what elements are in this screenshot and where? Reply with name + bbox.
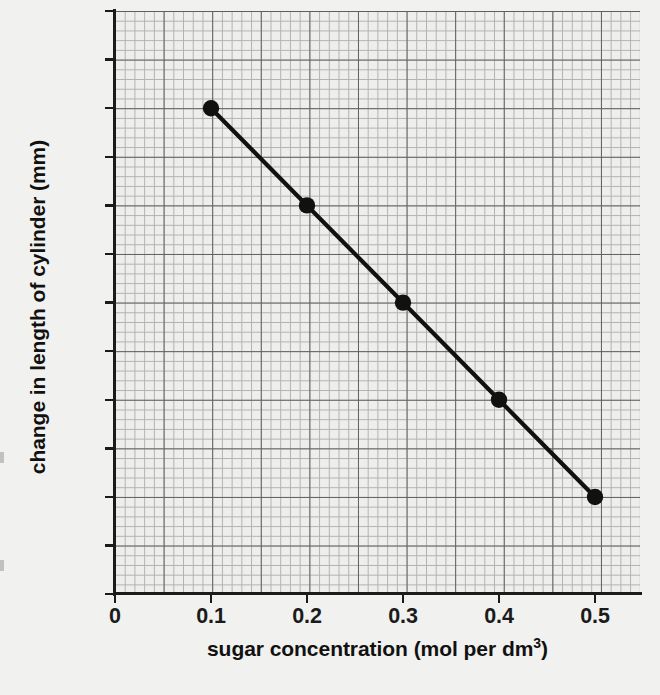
x-tick-label: 0.2 xyxy=(267,604,347,629)
y-tick-mark xyxy=(105,204,114,206)
y-tick-mark xyxy=(105,301,114,303)
x-tick-label: 0.5 xyxy=(555,604,635,629)
y-tick-mark xyxy=(105,544,114,546)
x-axis-title-base: sugar concentration (mol per dm xyxy=(207,637,533,660)
chart-figure: 3.0 2.5 2.0 1.5 1.0 0.5 0 −0.5 −1.0 −1.5… xyxy=(0,0,660,695)
y-tick-mark xyxy=(105,253,114,255)
y-tick-mark xyxy=(105,58,114,60)
y-tick-mark xyxy=(105,399,114,401)
x-tick-label: 0 xyxy=(75,604,155,629)
x-tick-mark xyxy=(114,594,116,603)
x-tick-mark xyxy=(210,594,212,603)
x-axis-title-tail: ) xyxy=(541,637,548,660)
x-axis-title: sugar concentration (mol per dm3) xyxy=(115,637,640,661)
y-axis-title: change in length of cylinder (mm) xyxy=(26,7,50,607)
x-tick-label: 0.3 xyxy=(363,604,443,629)
y-tick-mark xyxy=(105,107,114,109)
y-tick-mark xyxy=(105,447,114,449)
y-tick-mark xyxy=(105,10,114,12)
x-tick-mark xyxy=(498,594,500,603)
x-axis-line xyxy=(113,592,642,595)
y-tick-mark xyxy=(105,593,114,595)
x-tick-mark xyxy=(402,594,404,603)
plot-area xyxy=(115,11,640,594)
grid-minor xyxy=(115,11,640,594)
x-tick-mark xyxy=(594,594,596,603)
grid-major xyxy=(115,11,640,594)
y-tick-mark xyxy=(105,496,114,498)
scan-artifact-top xyxy=(0,452,4,463)
x-tick-mark xyxy=(306,594,308,603)
scan-artifact-bottom xyxy=(0,560,4,571)
y-tick-mark xyxy=(105,350,114,352)
y-tick-mark xyxy=(105,156,114,158)
x-tick-label: 0.1 xyxy=(171,604,251,629)
x-tick-label: 0.4 xyxy=(459,604,539,629)
x-axis-title-exponent: 3 xyxy=(533,635,541,651)
